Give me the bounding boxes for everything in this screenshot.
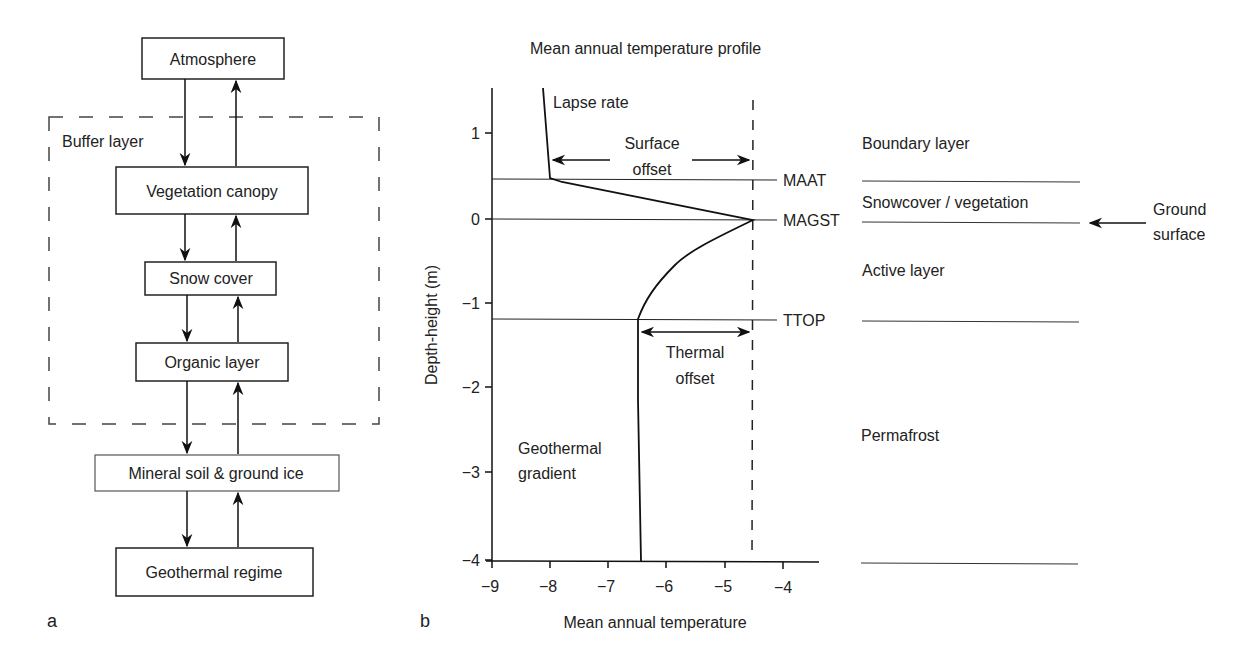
surface-offset-label-2: offset [633, 161, 672, 178]
magst-label: MAGST [783, 212, 840, 229]
y-axis-label: Depth-height (m) [423, 265, 440, 385]
svg-text:−2: −2 [462, 379, 480, 396]
svg-text:−4: −4 [462, 552, 480, 569]
x-tick-labels: −9 −8 −7 −6 −5 −4 [481, 578, 792, 596]
y-ticks [485, 133, 492, 560]
box-geothermal-regime: Geothermal regime [116, 548, 313, 596]
lapse-rate-label: Lapse rate [553, 94, 629, 111]
svg-text:Snow cover: Snow cover [169, 270, 253, 287]
svg-text:−6: −6 [655, 578, 673, 595]
y-tick-labels: 1 0 −1 −2 −3 −4 [462, 125, 480, 569]
svg-text:Atmosphere: Atmosphere [170, 51, 256, 68]
box-atmosphere: Atmosphere [142, 38, 284, 79]
svg-text:Geothermal regime: Geothermal regime [146, 564, 283, 581]
thermal-offset-label-2: offset [676, 370, 715, 387]
panel-b-chart: Mean annual temperature profile 1 0 −1 −… [420, 40, 840, 631]
svg-text:−4: −4 [774, 579, 792, 596]
svg-text:Mineral soil & ground ice: Mineral soil & ground ice [128, 465, 303, 482]
zone-labels: Boundary layer Snowcover / vegetation Gr… [861, 135, 1206, 564]
ground-surface-label-2: surface [1153, 226, 1206, 243]
geothermal-gradient-label-2: gradient [518, 465, 576, 482]
svg-text:Vegetation canopy: Vegetation canopy [146, 183, 278, 200]
svg-text:Organic layer: Organic layer [164, 354, 260, 371]
ttop-label: TTOP [783, 312, 825, 329]
zone-active-layer: Active layer [862, 262, 945, 279]
chart-title: Mean annual temperature profile [530, 40, 761, 57]
buffer-layer-label: Buffer layer [62, 133, 144, 150]
svg-text:0: 0 [471, 211, 480, 228]
zone-divider-magst [862, 222, 1080, 223]
box-organic-layer: Organic layer [136, 343, 288, 381]
svg-text:−5: −5 [714, 578, 732, 595]
box-snow-cover: Snow cover [145, 262, 276, 295]
temperature-profile-line [543, 88, 753, 561]
surface-offset-label-1: Surface [624, 135, 679, 152]
panel-b-label: b [420, 611, 430, 631]
zone-divider-maat [862, 181, 1080, 182]
svg-text:−1: −1 [462, 295, 480, 312]
x-axis [486, 561, 819, 562]
svg-text:−3: −3 [462, 464, 480, 481]
zone-divider-ttop [862, 321, 1079, 322]
zone-boundary-layer: Boundary layer [862, 135, 970, 152]
figure-canvas: Buffer layer Atmosphere Vegetation canop… [0, 0, 1256, 666]
svg-text:1: 1 [471, 125, 480, 142]
box-vegetation-canopy: Vegetation canopy [116, 167, 308, 214]
reference-lines [492, 179, 777, 320]
box-mineral-soil: Mineral soil & ground ice [95, 455, 339, 491]
panel-a-label: a [47, 611, 58, 631]
maat-label: MAAT [783, 172, 826, 189]
zone-divider-bottom [861, 563, 1078, 564]
thermal-offset-label-1: Thermal [666, 344, 725, 361]
ground-surface-label-1: Ground [1153, 201, 1206, 218]
svg-text:−8: −8 [539, 578, 557, 595]
svg-text:−9: −9 [481, 578, 499, 595]
svg-text:−7: −7 [597, 578, 615, 595]
zone-permafrost: Permafrost [861, 427, 940, 444]
x-axis-label: Mean annual temperature [563, 614, 746, 631]
geothermal-gradient-label-1: Geothermal [518, 440, 602, 457]
mean-temp-dashed-line [752, 100, 753, 558]
zone-snowcover-vegetation: Snowcover / vegetation [862, 194, 1028, 211]
panel-a-flowchart: Buffer layer Atmosphere Vegetation canop… [47, 38, 379, 631]
